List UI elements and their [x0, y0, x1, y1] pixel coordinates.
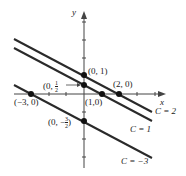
label-point-0-1: (0, 1): [88, 67, 108, 76]
label-point-0-m3half: (0, −32): [48, 116, 71, 129]
point-0-half: [81, 82, 87, 88]
point-0-m3half: [81, 118, 87, 124]
point-2-0: [116, 91, 122, 97]
plot-canvas: [0, 0, 186, 176]
y-axis: [81, 11, 87, 168]
label-point-2-0: (2, 0): [113, 80, 133, 89]
y-axis-label: y: [72, 8, 76, 17]
label-line-cm3: C = −3: [121, 157, 148, 166]
level-curves-diagram: y x (0, 1) (0, 12 (2, 0) (1,0) (−3, 0) (…: [0, 0, 186, 176]
label-point-0-half: (0, 12: [43, 80, 58, 93]
point-0-1: [81, 72, 87, 78]
label-point-1-0: (1,0): [85, 98, 102, 107]
label-line-c2: C = 2: [155, 107, 176, 116]
label-point-m3-0: (−3, 0): [14, 98, 39, 107]
label-line-c1: C = 1: [130, 125, 151, 134]
